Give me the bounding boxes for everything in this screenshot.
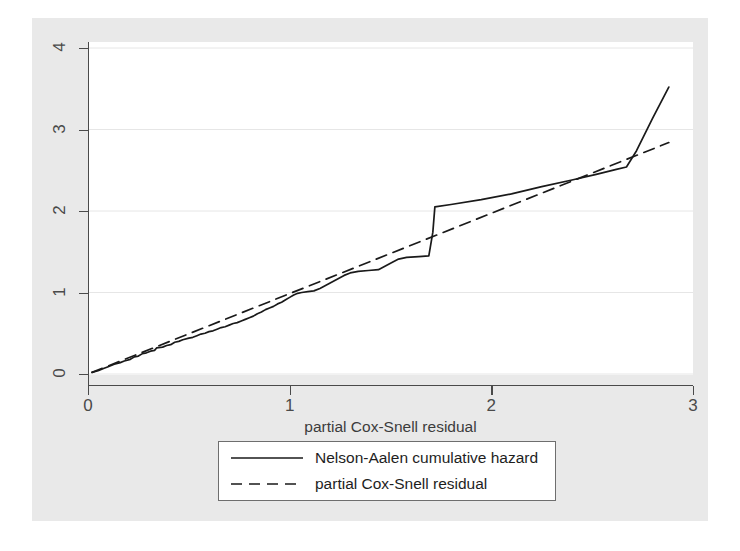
legend-label-nelson-aalen: Nelson-Aalen cumulative hazard (315, 449, 538, 467)
y-tick-label: 4 (50, 34, 70, 60)
x-tick-label: 0 (73, 396, 103, 416)
x-tick-label: 2 (476, 396, 506, 416)
x-tick-label: 1 (275, 396, 305, 416)
y-tick-mark (79, 293, 88, 294)
x-tick-mark (693, 386, 694, 395)
legend-key-dashed-line-icon (229, 475, 305, 493)
x-tick-mark (491, 386, 492, 395)
legend-label-cox-snell: partial Cox-Snell residual (315, 475, 487, 493)
plot-area (88, 42, 693, 375)
legend-key-solid-line-icon (229, 449, 305, 467)
y-tick-label: 3 (50, 116, 70, 142)
legend-entry-cox-snell: partial Cox-Snell residual (229, 471, 487, 497)
y-tick-mark (79, 211, 88, 212)
legend: Nelson-Aalen cumulative hazard partial C… (218, 441, 556, 501)
x-axis-line (88, 385, 693, 386)
x-tick-mark (88, 386, 89, 395)
y-tick-label: 0 (50, 360, 70, 386)
x-tick-mark (290, 386, 291, 395)
x-tick-label: 3 (678, 396, 708, 416)
y-tick-mark (79, 374, 88, 375)
y-axis-line (88, 42, 89, 386)
y-tick-label: 2 (50, 197, 70, 223)
legend-entry-nelson-aalen: Nelson-Aalen cumulative hazard (229, 445, 538, 471)
series-line-1 (92, 143, 669, 373)
x-axis-title: partial Cox-Snell residual (88, 418, 693, 436)
y-tick-label: 1 (50, 279, 70, 305)
plot-canvas (88, 42, 693, 375)
gridlines (88, 48, 693, 374)
y-tick-mark (79, 130, 88, 131)
chart-figure: 01234 0123 partial Cox-Snell residual Ne… (0, 0, 740, 551)
y-tick-mark (79, 48, 88, 49)
